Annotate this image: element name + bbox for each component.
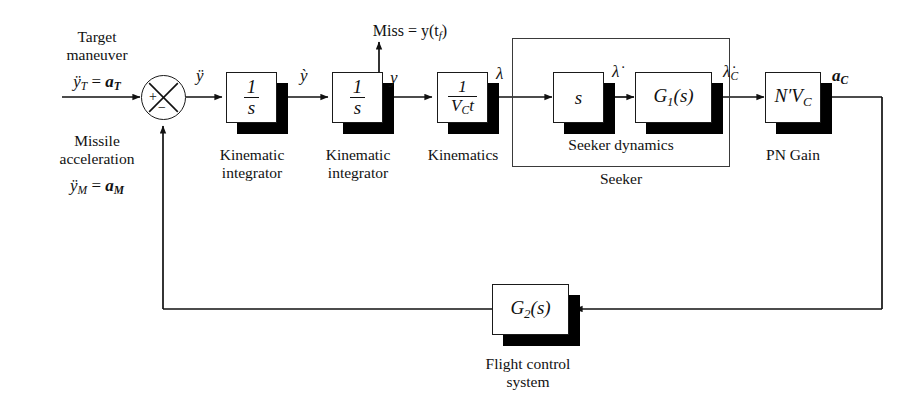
pn-gain-symbol: N′V	[774, 85, 802, 106]
target-maneuver-label: Target maneuver	[66, 28, 127, 65]
signal-accel-command-label: aC	[832, 66, 848, 88]
signal-velocity-label: ỳ	[300, 66, 308, 86]
missile-accel-line2: acceleration	[60, 150, 135, 168]
flight-control-g2-expression: G2(s)	[510, 298, 550, 320]
kinematics-numerator: 1	[448, 78, 477, 96]
integrator2-caption-line2: integrator	[326, 164, 391, 182]
pn-gain-caption: PN Gain	[766, 146, 820, 164]
signal-accel-error-label: ÿ	[196, 66, 204, 86]
integrator1-denominator: s	[244, 97, 260, 118]
seeker-dynamics-group-label: Seeker dynamics	[568, 136, 673, 154]
kinematic-integrator-2-expression: 1 s	[350, 77, 366, 118]
pn-gain-block[interactable]: N′VC	[765, 72, 821, 123]
kinematics-denominator: VCt	[448, 96, 477, 117]
missile-accel-alias-subscript: M	[114, 184, 124, 197]
kinematic-integrator-1-expression: 1 s	[244, 77, 260, 118]
target-maneuver-line2: maneuver	[66, 46, 127, 64]
kinematic-integrator-2-caption: Kinematic integrator	[326, 146, 391, 183]
integrator1-caption-line2: integrator	[220, 164, 285, 182]
miss-label-text: Miss = y(t	[373, 22, 439, 39]
summing-junction-plus-sign: +	[149, 90, 157, 104]
g1-argument: (s)	[674, 85, 694, 106]
missile-acceleration-label: Missile acceleration	[60, 132, 135, 169]
pn-gain-subscript: C	[803, 94, 812, 109]
pn-gain-expression: N′VC	[774, 86, 811, 108]
integrator2-numerator: 1	[350, 77, 366, 97]
target-accel-subscript: T	[81, 80, 87, 93]
target-accel-alias-subscript: T	[114, 80, 121, 93]
kinematics-expression: 1 VCt	[448, 78, 477, 117]
missile-accel-alias: a	[105, 176, 114, 195]
target-maneuver-line1: Target	[66, 28, 127, 46]
seeker-dynamics-g1-block[interactable]: G1(s)	[635, 72, 712, 123]
integrator1-numerator: 1	[244, 77, 260, 97]
miss-label-tail: )	[442, 22, 447, 39]
missile-accel-line1: Missile	[60, 132, 135, 150]
kinematic-integrator-1-block[interactable]: 1 s	[226, 72, 277, 123]
seeker-dynamics-g1-expression: G1(s)	[653, 86, 693, 108]
diagram-wires	[0, 0, 922, 412]
g2-symbol: G	[510, 297, 524, 318]
accel-cmd-symbol: a	[832, 66, 841, 85]
miss-output-label: Miss = y(tf)	[373, 22, 447, 42]
block-diagram-canvas: Target maneuver ÿT = aT Missile accelera…	[0, 0, 922, 412]
flight-control-caption-line2: system	[486, 373, 571, 391]
kinematics-caption: Kinematics	[428, 146, 499, 164]
target-accel-symbol: ÿ	[73, 72, 81, 91]
flight-control-caption-line1: Flight control	[486, 355, 571, 373]
signal-los-rate-label: λ̇	[612, 62, 619, 82]
los-rate-cmd-subscript: C	[730, 70, 738, 83]
kinematics-caption-line1: Kinematics	[428, 146, 499, 164]
target-accel-alias: a	[105, 72, 114, 91]
seeker-differentiator-expression: s	[575, 88, 582, 108]
flight-control-g2-block[interactable]: G2(s)	[492, 284, 569, 335]
signal-position-label: y	[390, 68, 398, 88]
g2-argument: (s)	[531, 297, 551, 318]
flight-control-caption: Flight control system	[486, 355, 571, 392]
seeker-group-label: Seeker	[600, 170, 642, 188]
missile-accel-symbol: ÿ	[70, 176, 78, 195]
kinematics-time-symbol: t	[469, 96, 474, 115]
signal-los-rate-command-label: λ̇C	[723, 62, 738, 84]
summing-junction-minus-sign: −	[158, 101, 166, 115]
signal-los-angle-label: λ	[496, 64, 503, 84]
integrator1-caption-line1: Kinematic	[220, 146, 285, 164]
seeker-differentiator-block[interactable]: s	[553, 72, 604, 123]
missile-accel-subscript: M	[78, 184, 88, 197]
missile-acceleration-equation: ÿM = aM	[70, 176, 124, 198]
target-maneuver-equation: ÿT = aT	[73, 72, 121, 94]
integrator2-denominator: s	[350, 97, 366, 118]
kinematics-block[interactable]: 1 VCt	[437, 72, 488, 123]
accel-cmd-subscript: C	[841, 74, 849, 87]
kinematic-integrator-1-caption: Kinematic integrator	[220, 146, 285, 183]
kinematic-integrator-2-block[interactable]: 1 s	[332, 72, 383, 123]
g1-symbol: G	[653, 85, 667, 106]
integrator2-caption-line1: Kinematic	[326, 146, 391, 164]
kinematics-closing-velocity: V	[451, 96, 461, 115]
